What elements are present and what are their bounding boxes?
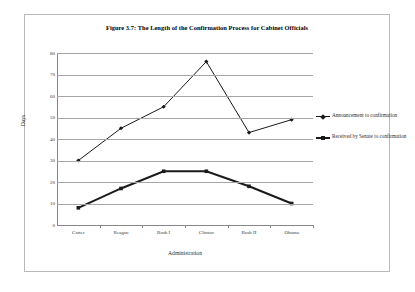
gridline [57,161,313,162]
gridline [57,75,313,76]
y-axis-tick-label: 80 [41,51,55,56]
legend-entry-announcement: Announcement to confirmation [316,112,411,119]
data-point-marker [247,130,251,134]
chart-title: Figure 3.7: The Length of the Confirmati… [34,24,380,31]
x-axis-tick-label: Reagan [97,230,145,235]
x-axis-tick-mark [100,225,101,228]
x-axis-tick-mark [313,225,314,228]
y-axis-tick-label: 50 [41,115,55,120]
x-axis-tick-label: Bush II [225,230,273,235]
x-axis-tick-mark [228,225,229,228]
series-line [78,62,291,161]
x-axis-tick-mark [185,225,186,228]
y-axis-tick-label: 20 [41,180,55,185]
data-point-marker [119,187,123,191]
square-marker-icon [316,135,330,140]
x-axis-tick-label: Clinton [182,230,230,235]
legend-entry-received: Received by Senate to confirmation [316,133,411,140]
data-point-marker [247,185,251,189]
legend-label: Announcement to confirmation [332,112,411,119]
y-axis-tick-label: 40 [41,137,55,142]
y-axis-tick-label: 0 [41,223,55,228]
x-axis-tick-mark [142,225,143,228]
figure-page: Figure 3.7: The Length of the Confirmati… [0,0,415,292]
x-axis-title: Administration [57,250,313,256]
diamond-marker-icon [316,114,330,119]
x-axis-tick-label: Obama [268,230,316,235]
gridline [57,182,313,183]
gridline [57,204,313,205]
gridline [57,53,313,54]
y-axis-title: Days [20,115,26,126]
gridline [57,118,313,119]
legend-label: Received by Senate to confirmation [332,133,411,140]
y-axis-tick-labels: 01020304050607080 [39,53,55,225]
plot-area [57,53,313,225]
data-point-marker [77,206,81,210]
gridline [57,96,313,97]
x-axis-tick-label: Bush I [140,230,188,235]
series-line [78,171,291,208]
y-axis-tick-label: 70 [41,72,55,77]
y-axis-tick-label: 60 [41,94,55,99]
x-axis-tick-mark [270,225,271,228]
y-axis-tick-label: 10 [41,201,55,206]
data-point-marker [162,169,166,173]
gridline [57,139,313,140]
y-axis-tick-label: 30 [41,158,55,163]
x-axis-tick-label: Carter [54,230,102,235]
chart-legend: Announcement to confirmation Received by… [316,112,411,154]
data-point-marker [205,169,209,173]
